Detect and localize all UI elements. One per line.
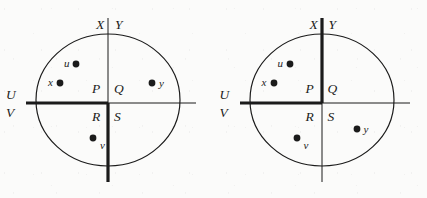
diagram-pair: XYUVPQRSuxyvXYUVPQRSuxvy — [0, 0, 427, 198]
region-label-s: S — [328, 110, 335, 124]
point-v-label: v — [100, 140, 105, 151]
axis-label-x: X — [310, 18, 318, 32]
region-label-r: R — [306, 110, 314, 124]
axis-label-v: V — [220, 106, 228, 120]
point-v-dot — [293, 135, 300, 142]
point-v-dot — [90, 135, 97, 142]
point-u-label: u — [278, 58, 284, 69]
left-figure: XYUVPQRSuxyv — [0, 0, 214, 198]
axis-label-v: V — [6, 106, 14, 120]
point-x-label: x — [48, 77, 53, 88]
point-u-label: u — [64, 58, 70, 69]
region-label-p: P — [306, 82, 314, 96]
point-v-label: v — [304, 140, 309, 151]
region-label-r: R — [92, 110, 100, 124]
axis-label-x: X — [96, 18, 104, 32]
point-x-label: x — [262, 77, 267, 88]
region-label-q: Q — [328, 82, 338, 96]
point-y-dot — [149, 80, 156, 87]
axis-label-y: Y — [115, 18, 123, 32]
point-y-dot — [353, 126, 360, 133]
region-label-q: Q — [114, 82, 124, 96]
point-u-dot — [286, 61, 293, 68]
axis-label-y: Y — [329, 18, 337, 32]
axis-label-u: U — [220, 88, 230, 102]
right-figure: XYUVPQRSuxvy — [214, 0, 427, 198]
region-label-p: P — [92, 82, 100, 96]
point-x-dot — [57, 80, 64, 87]
axis-label-u: U — [6, 88, 16, 102]
region-label-s: S — [114, 110, 121, 124]
point-y-label: y — [159, 78, 164, 89]
point-x-dot — [270, 80, 277, 87]
point-y-label: y — [364, 124, 369, 135]
point-u-dot — [73, 61, 80, 68]
